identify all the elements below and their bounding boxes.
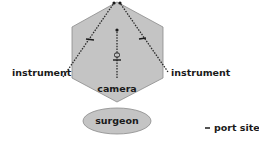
camera-lens-icon [115, 53, 120, 57]
instrument-left-label: instrument [12, 67, 72, 78]
legend-port-site-label: port site [214, 122, 259, 133]
camera-label: camera [97, 83, 136, 94]
surgeon-label: surgeon [95, 115, 139, 126]
right-port-site-marker [139, 38, 146, 39]
left-instrument-tip [112, 1, 115, 4]
left-port-site-marker [86, 39, 94, 40]
camera-tip [115, 28, 118, 31]
right-instrument-tip [118, 1, 121, 4]
port-placement-diagram: instrument instrument camera surgeon por… [0, 0, 259, 143]
instrument-right-label: instrument [171, 67, 231, 78]
